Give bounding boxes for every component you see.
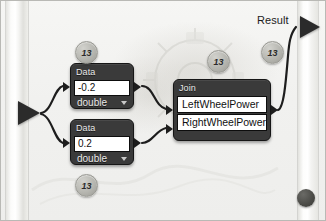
node-data-bottom-type-select[interactable]: double bbox=[74, 153, 130, 165]
chevron-down-icon bbox=[121, 101, 127, 105]
node-join[interactable]: Join LeftWheelPower RightWheelPower bbox=[173, 79, 271, 141]
node-data-top-header: Data bbox=[73, 66, 131, 80]
node-data-bottom-input-port[interactable] bbox=[63, 138, 70, 148]
step-badge-middle[interactable]: 13 bbox=[207, 50, 230, 73]
corner-dot[interactable] bbox=[297, 189, 315, 207]
node-data-top-output-port[interactable] bbox=[134, 82, 141, 92]
wire-join-to-result bbox=[278, 27, 296, 110]
node-join-output-port[interactable] bbox=[271, 105, 278, 115]
chevron-down-icon bbox=[121, 157, 127, 161]
step-badge-top-left[interactable]: 13 bbox=[75, 41, 98, 64]
node-data-top[interactable]: Data -0.2 double bbox=[70, 63, 134, 109]
result-output-arrow[interactable] bbox=[300, 16, 320, 38]
node-join-header: Join bbox=[176, 82, 268, 96]
node-data-top-input-port[interactable] bbox=[63, 82, 70, 92]
wire-data-bottom-to-join bbox=[142, 128, 166, 143]
node-data-bottom-header: Data bbox=[73, 122, 131, 136]
dataflow-canvas: Data -0.2 double Data 0.2 double Join Le… bbox=[0, 0, 326, 221]
node-data-top-type-label: double bbox=[77, 97, 107, 109]
step-badge-top-right[interactable]: 13 bbox=[261, 41, 284, 64]
node-join-row-left-wheel-power[interactable]: LeftWheelPower bbox=[177, 96, 267, 113]
step-badge-bottom-left[interactable]: 13 bbox=[75, 174, 98, 197]
node-join-row-right-wheel-power[interactable]: RightWheelPower bbox=[177, 114, 267, 131]
node-data-bottom-value[interactable]: 0.2 bbox=[74, 136, 130, 152]
result-label: Result bbox=[257, 14, 289, 26]
node-data-bottom[interactable]: Data 0.2 double bbox=[70, 119, 134, 165]
wire-input-to-data-bottom bbox=[41, 114, 63, 143]
node-data-bottom-output-port[interactable] bbox=[134, 138, 141, 148]
canvas-input-arrow[interactable] bbox=[18, 101, 40, 125]
node-data-bottom-type-label: double bbox=[77, 153, 107, 165]
node-join-input-port-right[interactable] bbox=[166, 124, 173, 134]
node-join-input-port-left[interactable] bbox=[166, 105, 173, 115]
wire-data-top-to-join bbox=[142, 86, 166, 109]
node-data-top-type-select[interactable]: double bbox=[74, 97, 130, 109]
wire-input-to-data-top bbox=[41, 86, 63, 113]
node-data-top-value[interactable]: -0.2 bbox=[74, 80, 130, 96]
